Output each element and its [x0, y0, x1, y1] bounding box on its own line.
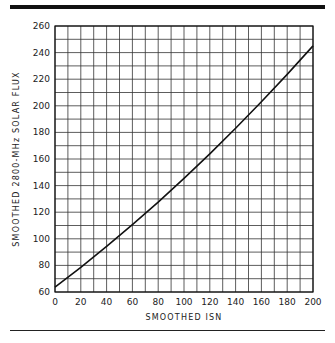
- y-tick-label: 200: [33, 101, 50, 111]
- y-tick-label: 240: [33, 48, 50, 58]
- y-tick-label: 180: [33, 127, 50, 137]
- y-tick-label: 80: [39, 260, 51, 270]
- y-tick-label: 220: [33, 74, 50, 84]
- y-tick-label: 160: [33, 154, 50, 164]
- y-tick-label: 60: [39, 287, 51, 297]
- x-axis-label: SMOOTHED ISN: [145, 313, 222, 322]
- x-tick-label: 160: [253, 297, 270, 307]
- x-tick-label: 180: [279, 297, 296, 307]
- y-tick-label: 120: [33, 207, 50, 217]
- x-tick-label: 140: [227, 297, 244, 307]
- x-tick-label: 120: [201, 297, 218, 307]
- x-tick-label: 100: [175, 297, 192, 307]
- chart: 020406080100120140160180200 608010012014…: [0, 0, 335, 343]
- bottom-rule: [10, 330, 325, 331]
- y-tick-label: 100: [33, 234, 50, 244]
- x-tick-label: 60: [127, 297, 139, 307]
- x-tick-label: 200: [304, 297, 321, 307]
- x-tick-label: 40: [101, 297, 113, 307]
- grid: [55, 26, 313, 292]
- y-axis-ticks: 6080100120140160180200220240260: [33, 21, 50, 297]
- y-tick-label: 260: [33, 21, 50, 31]
- x-tick-label: 20: [75, 297, 87, 307]
- y-tick-label: 140: [33, 181, 50, 191]
- x-tick-label: 80: [152, 297, 164, 307]
- x-axis-ticks: 020406080100120140160180200: [52, 297, 322, 307]
- x-tick-label: 0: [52, 297, 58, 307]
- y-axis-label: SMOOTHED 2800-MHz SOLAR FLUX: [12, 71, 21, 246]
